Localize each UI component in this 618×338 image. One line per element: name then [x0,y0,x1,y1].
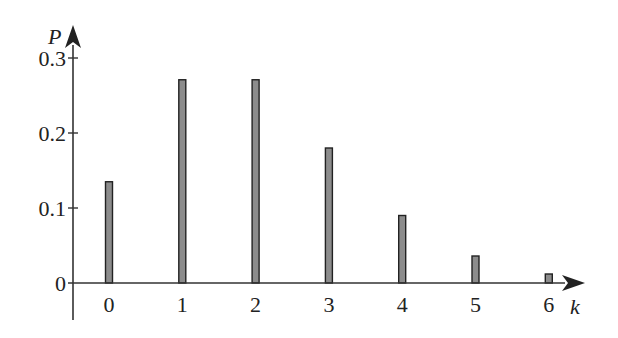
x-tick-label: 0 [104,292,115,317]
bar-k-1 [179,80,186,283]
y-axis-arrow-icon [65,25,81,48]
bar-k-5 [472,256,479,283]
y-ticks-group: 00.10.20.3 [39,46,79,296]
bar-k-6 [545,274,552,283]
poisson-bar-chart: 00.10.20.3 0123456 P k [0,0,618,338]
y-tick-label: 0.3 [39,46,67,71]
x-ticks-group: 0123456 [104,292,555,317]
bar-k-2 [252,80,259,283]
x-tick-label: 2 [250,292,261,317]
y-axis-label: P [47,24,61,49]
y-tick-label: 0.2 [39,121,67,146]
x-tick-label: 6 [543,292,554,317]
x-axis-label: k [570,294,581,319]
y-tick-label: 0 [55,271,66,296]
x-tick-label: 1 [177,292,188,317]
y-tick-label: 0.1 [39,196,67,221]
bar-k-3 [325,148,332,283]
x-tick-label: 3 [323,292,334,317]
bar-k-4 [399,216,406,284]
bars-group [106,80,553,283]
x-tick-label: 5 [470,292,481,317]
x-tick-label: 4 [397,292,408,317]
bar-k-0 [106,182,113,283]
x-axis-arrow-icon [562,275,585,291]
